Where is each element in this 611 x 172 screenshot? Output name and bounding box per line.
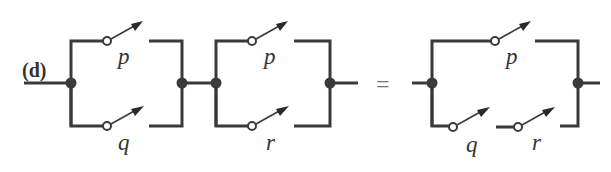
switch-q-icon <box>103 106 144 130</box>
switch-p-icon <box>248 21 288 45</box>
junction-node <box>177 78 188 89</box>
block2-parallel-p-r: p r <box>211 21 359 155</box>
switch-label-p: p <box>116 44 130 69</box>
junction-node <box>66 78 77 89</box>
equals-sign: = <box>376 71 390 97</box>
switch-label-p: p <box>504 44 518 69</box>
junction-node <box>427 78 438 89</box>
switch-label-q: q <box>118 130 130 155</box>
switch-label-p: p <box>262 44 276 69</box>
switching-circuit-diagram: (d) p q <box>0 0 611 172</box>
switch-p-icon <box>103 21 143 45</box>
switch-label-q: q <box>466 132 478 157</box>
switch-r-icon <box>514 107 555 131</box>
switch-r-icon <box>248 106 289 130</box>
junction-node <box>211 78 222 89</box>
switch-p-icon <box>491 21 531 45</box>
equivalent-circuit: p q r <box>412 21 600 157</box>
part-label: (d) <box>22 59 46 82</box>
junction-node <box>573 78 584 89</box>
switch-q-icon <box>449 107 490 131</box>
junction-node <box>325 78 336 89</box>
switch-label-r: r <box>266 130 276 155</box>
switch-label-r: r <box>532 130 542 155</box>
block1-parallel-p-q: p q <box>24 21 216 155</box>
